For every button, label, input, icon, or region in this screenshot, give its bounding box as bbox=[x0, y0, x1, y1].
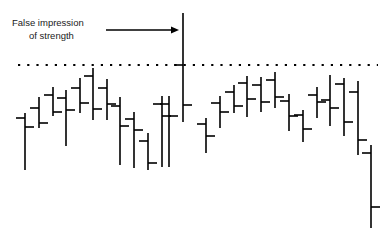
annotation-line-2: of strength bbox=[29, 30, 74, 41]
annotation-line-1: False impression bbox=[12, 17, 84, 28]
ohlc-chart: False impressionof strength bbox=[0, 0, 390, 240]
chart-canvas: False impressionof strength bbox=[0, 0, 390, 240]
